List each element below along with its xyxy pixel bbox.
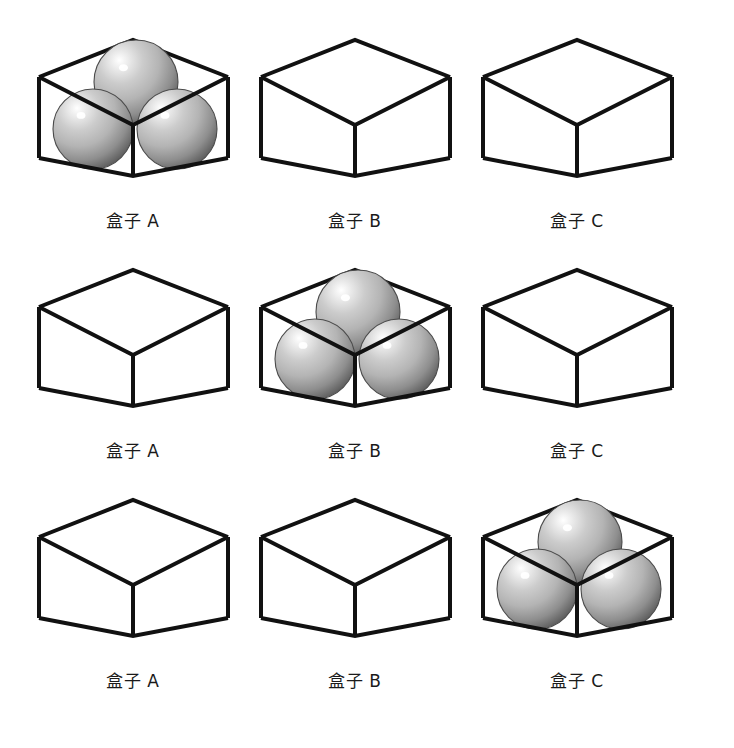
sphere-front-left (497, 549, 577, 629)
empty-box (253, 30, 458, 208)
box-illustration (253, 30, 458, 208)
empty-box (31, 260, 236, 438)
box-illustration (31, 260, 236, 438)
box-with-spheres (253, 260, 458, 438)
box-grid: 盒子 A盒子 B盒子 C盒子 A盒子 B盒子 C盒子 A盒子 B盒子 C (0, 0, 734, 748)
box-illustration (253, 260, 458, 438)
box-cell-b-row2[interactable]: 盒子 B (244, 260, 466, 490)
empty-box (31, 490, 236, 668)
box-cell-a-row1[interactable]: 盒子 A (22, 30, 244, 260)
box-front-edges (261, 537, 450, 636)
box-illustration (475, 260, 680, 438)
empty-box (475, 30, 680, 208)
empty-box (475, 260, 680, 438)
box-cell-b-row3[interactable]: 盒子 B (244, 490, 466, 720)
sphere-front-left (53, 89, 133, 169)
box-label: 盒子 B (328, 210, 381, 232)
box-back-edges (261, 40, 450, 77)
box-cell-b-row1[interactable]: 盒子 B (244, 30, 466, 260)
box-front-edges (39, 537, 228, 636)
box-label: 盒子 A (106, 210, 159, 232)
box-label: 盒子 A (106, 670, 159, 692)
box-front-edges (261, 77, 450, 176)
box-illustration (475, 30, 680, 208)
box-back-edges (39, 270, 228, 307)
box-with-spheres (475, 490, 680, 668)
box-illustration (31, 30, 236, 208)
box-label: 盒子 B (328, 670, 381, 692)
box-cell-c-row1[interactable]: 盒子 C (466, 30, 688, 260)
box-label: 盒子 A (106, 440, 159, 462)
sphere-front-left (275, 319, 355, 399)
box-cell-c-row3[interactable]: 盒子 C (466, 490, 688, 720)
box-illustration (253, 490, 458, 668)
box-cell-a-row3[interactable]: 盒子 A (22, 490, 244, 720)
box-front-edges (39, 307, 228, 406)
box-back-edges (483, 40, 672, 77)
box-cell-c-row2[interactable]: 盒子 C (466, 260, 688, 490)
box-row-3: 盒子 A盒子 B盒子 C (0, 490, 734, 720)
box-label: 盒子 C (550, 440, 603, 462)
box-row-1: 盒子 A盒子 B盒子 C (0, 30, 734, 260)
empty-box (253, 490, 458, 668)
box-back-edges (483, 270, 672, 307)
box-front-edges (483, 77, 672, 176)
box-row-2: 盒子 A盒子 B盒子 C (0, 260, 734, 490)
box-illustration (31, 490, 236, 668)
box-label: 盒子 B (328, 440, 381, 462)
box-front-edges (483, 307, 672, 406)
box-cell-a-row2[interactable]: 盒子 A (22, 260, 244, 490)
box-label: 盒子 C (550, 670, 603, 692)
box-with-spheres (31, 30, 236, 208)
box-illustration (475, 490, 680, 668)
box-back-edges (39, 500, 228, 537)
box-back-edges (261, 500, 450, 537)
box-label: 盒子 C (550, 210, 603, 232)
